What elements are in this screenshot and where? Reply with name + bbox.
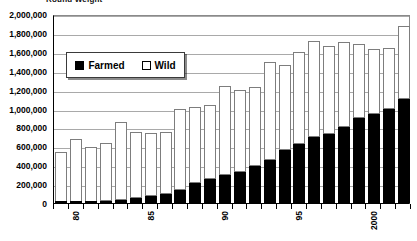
bar-segment-farmed: [219, 175, 231, 203]
y-axis-tick-label: 800,000: [16, 123, 47, 133]
bar-segment-wild: [234, 90, 246, 172]
bar-segment-wild: [308, 41, 320, 136]
bar-segment-farmed: [160, 194, 172, 203]
x-axis-tick: [336, 204, 337, 209]
y-axis-tick-label: 1,600,000: [9, 48, 47, 58]
x-axis-tick: [351, 204, 352, 209]
x-axis-tick: [187, 204, 188, 209]
bar-column: [368, 49, 380, 203]
x-axis-tick-label: 95: [294, 211, 304, 220]
bar-column: [293, 52, 305, 203]
x-axis-tick: [306, 204, 307, 209]
legend-item-wild: Wild: [142, 60, 176, 71]
bar-segment-farmed: [353, 118, 365, 203]
bar-segment-farmed: [204, 179, 216, 203]
legend-item-farmed: Farmed: [75, 60, 124, 71]
x-axis-tick: [172, 204, 173, 209]
y-axis: 2,000,0001,800,0001,600,0001,400,0001,20…: [0, 0, 52, 219]
x-axis-tick: [157, 204, 158, 209]
bar-segment-farmed: [383, 109, 395, 204]
x-axis-tick: [321, 204, 322, 209]
x-axis-tick: [365, 204, 366, 209]
bar-column: [338, 42, 350, 203]
bar-column: [323, 46, 335, 203]
bar-segment-wild: [204, 105, 216, 179]
x-axis-tick: [246, 204, 247, 209]
bar-segment-farmed: [70, 201, 82, 203]
x-axis-tick: [276, 204, 277, 209]
y-axis-tick-label: 1,000,000: [9, 105, 47, 115]
bar-column: [353, 44, 365, 203]
bar-segment-wild: [100, 143, 112, 201]
bar-segment-farmed: [145, 196, 157, 203]
bar-segment-farmed: [368, 114, 380, 203]
chart-legend: Farmed Wild: [66, 52, 185, 78]
bar-column: [264, 62, 276, 203]
bar-column: [249, 87, 261, 203]
x-axis: 808590952000: [53, 204, 410, 241]
bar-segment-wild: [160, 132, 172, 193]
bar-column: [174, 109, 186, 204]
legend-label-wild: Wild: [155, 60, 176, 71]
y-axis-tick-label: 200,000: [16, 180, 47, 190]
x-axis-tick: [261, 204, 262, 209]
bar-series-group: [54, 16, 409, 203]
x-axis-tick: [232, 204, 233, 209]
bar-segment-wild: [279, 65, 291, 150]
y-axis-tick-label: 1,200,000: [9, 86, 47, 96]
x-axis-tick: [68, 204, 69, 209]
bar-column: [130, 132, 142, 203]
x-axis-tick: [53, 204, 54, 209]
bar-segment-wild: [398, 26, 410, 99]
x-axis-tick-label: 80: [71, 211, 81, 220]
bar-column: [115, 122, 127, 203]
chart-title: Round Weight: [46, 0, 102, 4]
x-axis-tick: [98, 204, 99, 209]
bar-column: [100, 143, 112, 203]
bar-segment-farmed: [323, 134, 335, 203]
bar-column: [398, 26, 410, 203]
y-axis-tick-label: 600,000: [16, 142, 47, 152]
x-axis-tick: [83, 204, 84, 209]
y-axis-tick-label: 1,800,000: [9, 29, 47, 39]
bar-column: [189, 107, 201, 203]
bar-segment-wild: [70, 139, 82, 202]
bar-segment-wild: [323, 46, 335, 134]
bar-column: [55, 152, 67, 203]
bar-segment-farmed: [338, 127, 350, 203]
bar-segment-farmed: [234, 172, 246, 203]
bar-segment-farmed: [85, 201, 97, 203]
bar-segment-farmed: [249, 166, 261, 203]
x-axis-tick: [380, 204, 381, 209]
bar-column: [383, 48, 395, 203]
x-axis-tick: [127, 204, 128, 209]
bar-column: [308, 41, 320, 203]
bar-column: [204, 105, 216, 203]
y-axis-tick-label: 0: [42, 199, 47, 209]
x-axis-tick: [113, 204, 114, 209]
bar-segment-wild: [174, 109, 186, 190]
x-axis-tick: [142, 204, 143, 209]
legend-swatch-wild-icon: [142, 61, 151, 70]
bar-column: [70, 139, 82, 203]
x-axis-tick: [202, 204, 203, 209]
y-axis-tick-label: 400,000: [16, 161, 47, 171]
bar-segment-wild: [249, 87, 261, 166]
bar-segment-wild: [383, 48, 395, 108]
bar-column: [279, 65, 291, 203]
bar-segment-farmed: [130, 198, 142, 203]
bar-segment-wild: [189, 107, 201, 184]
bar-segment-farmed: [398, 99, 410, 203]
bar-segment-wild: [338, 42, 350, 127]
bar-segment-wild: [219, 86, 231, 175]
bar-segment-farmed: [264, 160, 276, 203]
x-axis-tick: [291, 204, 292, 209]
bar-segment-wild: [115, 122, 127, 200]
chart-container: Round Weight 2,000,0001,800,0001,600,000…: [0, 0, 417, 241]
legend-label-farmed: Farmed: [88, 60, 124, 71]
plot-area: [53, 15, 410, 204]
x-axis-tick-label: 90: [220, 211, 230, 220]
x-axis-tick-label: 85: [146, 211, 156, 220]
bar-segment-farmed: [308, 137, 320, 203]
bar-column: [85, 147, 97, 203]
